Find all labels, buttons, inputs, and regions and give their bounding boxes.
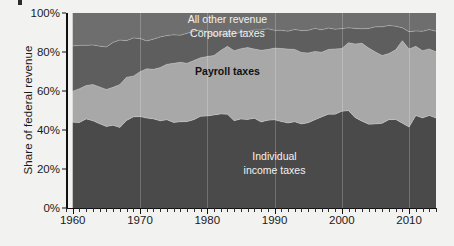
plot-area: All other revenueCorporate taxesPayroll …: [66, 13, 436, 208]
x-axis-minor-tick: [322, 208, 323, 212]
x-axis-minor-tick: [120, 208, 121, 212]
y-axis-tick-label: 0%: [16, 202, 60, 214]
stacked-area-paths: [66, 13, 436, 208]
y-axis-tick-label: 20%: [16, 163, 60, 175]
x-axis-minor-tick: [201, 208, 202, 212]
x-axis-minor-tick: [389, 208, 390, 212]
x-axis-minor-tick: [234, 208, 235, 212]
x-axis-minor-tick: [335, 208, 336, 212]
x-axis-minor-tick: [369, 208, 370, 212]
x-axis-minor-tick: [423, 208, 424, 212]
x-axis-minor-tick: [79, 208, 80, 212]
area-band-individual-income-taxes: [73, 111, 436, 208]
x-axis-minor-tick: [221, 208, 222, 212]
x-axis-minor-tick: [93, 208, 94, 212]
y-axis-tick-label: 40%: [16, 124, 60, 136]
x-axis-tick-label: 1970: [127, 214, 153, 226]
chart-figure: Share of federal revenue 0%20%40%60%80%1…: [0, 0, 454, 246]
x-axis-minor-tick: [153, 208, 154, 212]
x-axis-minor-tick: [133, 208, 134, 212]
x-axis-minor-tick: [160, 208, 161, 212]
x-axis-minor-tick: [86, 208, 87, 212]
x-axis-minor-tick: [349, 208, 350, 212]
x-axis-minor-tick: [147, 208, 148, 212]
x-axis-minor-tick: [187, 208, 188, 212]
x-axis-minor-tick: [362, 208, 363, 212]
gridline: [342, 13, 343, 208]
x-axis-minor-tick: [301, 208, 302, 212]
x-axis-minor-tick: [100, 208, 101, 212]
x-axis-minor-tick: [113, 208, 114, 212]
x-axis-minor-tick: [261, 208, 262, 212]
x-axis-minor-tick: [167, 208, 168, 212]
x-axis-tick-label: 2010: [396, 214, 422, 226]
gridline: [140, 13, 141, 208]
x-axis-minor-tick: [254, 208, 255, 212]
x-axis-minor-tick: [402, 208, 403, 212]
x-axis-minor-tick: [214, 208, 215, 212]
x-axis-minor-tick: [429, 208, 430, 212]
x-axis-minor-tick: [106, 208, 107, 212]
x-axis-minor-tick: [248, 208, 249, 212]
x-axis-minor-tick: [227, 208, 228, 212]
x-axis-minor-tick: [66, 208, 67, 212]
x-axis-tick-label: 1960: [60, 214, 86, 226]
x-axis-tick-label: 1980: [194, 214, 220, 226]
x-axis-minor-tick: [295, 208, 296, 212]
x-axis-minor-tick: [328, 208, 329, 212]
x-axis-minor-tick: [416, 208, 417, 212]
x-axis-minor-tick: [194, 208, 195, 212]
y-axis-tick-label: 60%: [16, 85, 60, 97]
gridline: [275, 13, 276, 208]
x-axis-minor-tick: [174, 208, 175, 212]
y-axis-tick-label: 100%: [16, 7, 60, 19]
x-axis-minor-tick: [436, 208, 437, 212]
gridline: [207, 13, 208, 208]
gridline: [409, 13, 410, 208]
y-axis-tick-label: 80%: [16, 46, 60, 58]
x-axis-minor-tick: [315, 208, 316, 212]
x-axis-minor-tick: [355, 208, 356, 212]
x-axis-minor-tick: [375, 208, 376, 212]
x-axis-minor-tick: [382, 208, 383, 212]
x-axis-minor-tick: [288, 208, 289, 212]
x-axis-minor-tick: [127, 208, 128, 212]
x-axis-tick-label: 2000: [329, 214, 355, 226]
x-axis-tick-label: 1990: [262, 214, 288, 226]
x-axis-minor-tick: [268, 208, 269, 212]
x-axis-minor-tick: [281, 208, 282, 212]
y-axis-tick-group: 0%20%40%60%80%100%: [0, 0, 60, 246]
x-axis-minor-tick: [308, 208, 309, 212]
x-axis-minor-tick: [241, 208, 242, 212]
x-axis-minor-tick: [396, 208, 397, 212]
x-axis-minor-tick: [180, 208, 181, 212]
